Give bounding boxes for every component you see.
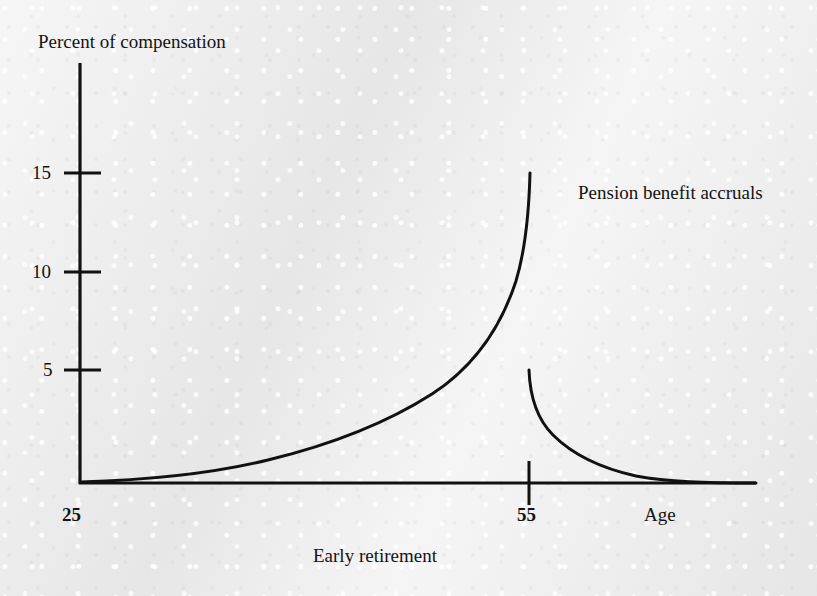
chart-caption: Early retirement: [313, 546, 437, 565]
x-tick-label-25: 25: [62, 505, 81, 524]
y-tick-label-5: 5: [43, 360, 53, 379]
accrual-declining-curve: [529, 370, 756, 483]
y-tick-label-10: 10: [32, 262, 51, 281]
series-annotation-pension-benefit-accruals: Pension benefit accruals: [578, 183, 763, 202]
chart-figure: Percent of compensation 15 10 5 25 55 Ag…: [0, 0, 817, 596]
y-tick-label-15: 15: [32, 163, 51, 182]
x-tick-label-55: 55: [517, 505, 536, 524]
x-axis-title: Age: [644, 505, 676, 524]
chart-canvas: [0, 0, 817, 596]
y-axis-title: Percent of compensation: [38, 32, 226, 51]
accrual-rising-curve: [81, 173, 530, 482]
